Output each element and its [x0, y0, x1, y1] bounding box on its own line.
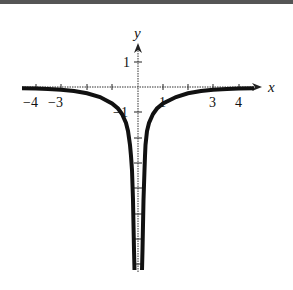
chart-plot: x y −4 −3 1 3 4 1 −1 — [0, 0, 293, 290]
x-tick-label-neg4: −4 — [23, 95, 38, 110]
curve-right-branch — [142, 88, 254, 270]
y-tick-label-neg1: −1 — [113, 105, 128, 120]
y-axis-label: y — [132, 25, 141, 41]
x-tick-label-neg3: −3 — [48, 95, 63, 110]
x-tick-label-1: 1 — [159, 95, 166, 110]
x-tick-label-3: 3 — [209, 95, 216, 110]
x-axis-label: x — [267, 79, 275, 95]
y-tick-label-1: 1 — [123, 55, 130, 70]
x-tick-label-4: 4 — [235, 95, 242, 110]
